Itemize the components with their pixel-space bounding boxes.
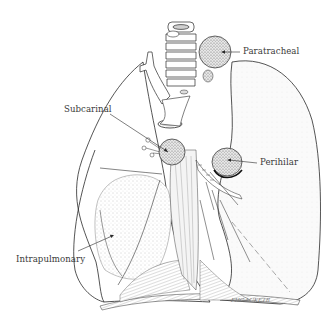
perihilar-node xyxy=(212,148,242,176)
artist-signature: FHG-LUKETB xyxy=(230,297,270,303)
subcarinal-node xyxy=(159,139,185,165)
label-subcarinal: Subcarinal xyxy=(64,104,112,114)
intrapulmonary-region xyxy=(95,175,171,279)
lung-lymph-node-diagram: Paratracheal Subcarinal Perihilar Intrap… xyxy=(0,0,333,325)
label-perihilar: Perihilar xyxy=(260,157,298,167)
left-lung-outline xyxy=(218,61,321,304)
label-paratracheal: Paratracheal xyxy=(243,46,299,56)
label-intrapulmonary: Intrapulmonary xyxy=(16,254,85,264)
